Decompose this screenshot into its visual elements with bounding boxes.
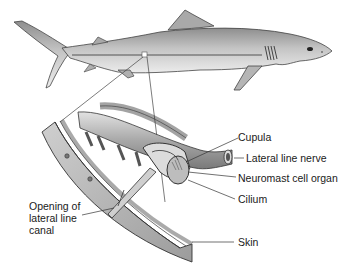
label-opening-line3: canal [29, 224, 54, 236]
label-skin: Skin [238, 236, 258, 248]
label-cupula: Cupula [238, 131, 271, 143]
label-opening-line2: lateral line [29, 212, 77, 224]
label-lateral-line-nerve: Lateral line nerve [246, 152, 327, 164]
shark-illustration [14, 10, 332, 90]
label-opening-line1: Opening of [29, 200, 80, 212]
label-cilium: Cilium [238, 193, 267, 205]
label-neuromast-cell-organ: Neuromast cell organ [238, 172, 338, 184]
lateral-line-diagram: Cupula Lateral line nerve Neuromast cell… [0, 0, 343, 264]
